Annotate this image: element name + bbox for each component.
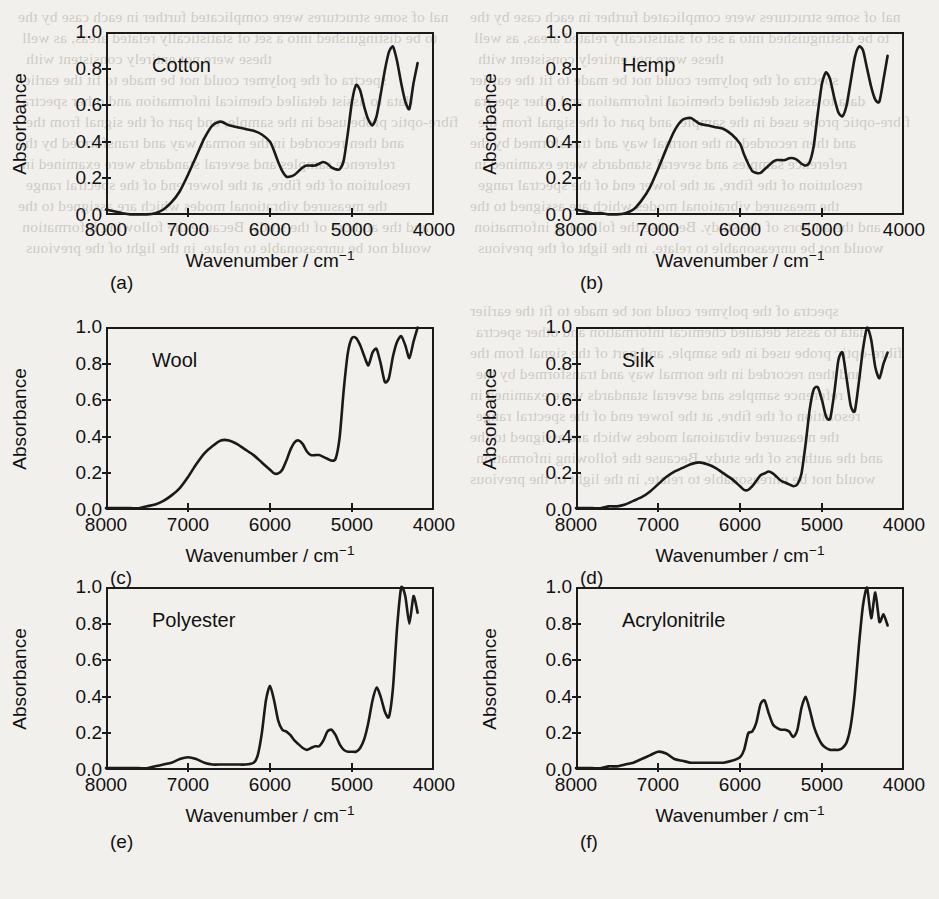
x-tick-label: 7000 (167, 514, 209, 536)
x-tick-mark (351, 763, 353, 772)
y-tick-label: 0.4 (76, 131, 102, 153)
series-label-polyester: Polyester (152, 609, 235, 632)
y-tick-label: 1.0 (546, 316, 572, 338)
y-tick-label: 0.2 (546, 167, 572, 189)
x-tick-label: 7000 (167, 219, 209, 241)
x-tick-label: 8000 (85, 219, 127, 241)
x-tick-mark (351, 503, 353, 512)
y-axis-title-d: Absorbance (478, 327, 502, 510)
panel-wool: Absorbance 0.00.20.40.60.81.0 Wool 80007… (0, 295, 469, 555)
x-tick-labels-c: 80007000600050004000 (106, 514, 434, 540)
x-tick-label: 8000 (555, 514, 597, 536)
y-tick-label: 0.6 (76, 94, 102, 116)
y-tick-label: 0.6 (546, 94, 572, 116)
y-tick-label: 0.8 (76, 613, 102, 635)
x-tick-label: 5000 (801, 219, 843, 241)
x-tick-mark (657, 503, 659, 512)
y-tick-label: 0.2 (76, 167, 102, 189)
panel-acrylonitrile: Absorbance 0.00.20.40.60.81.0 Acrylonitr… (470, 555, 939, 894)
y-tick-label: 0.8 (76, 58, 102, 80)
y-tick-labels-e: 0.00.20.40.60.81.0 (60, 587, 102, 770)
y-tick-label: 0.2 (546, 462, 572, 484)
x-tick-label: 4000 (883, 219, 925, 241)
x-tick-label: 6000 (719, 219, 761, 241)
y-tick-labels-d: 0.00.20.40.60.81.0 (530, 327, 572, 510)
series-label-cotton: Cotton (152, 54, 211, 77)
x-tick-mark (269, 208, 271, 217)
panel-tag-e: (e) (110, 831, 133, 853)
panel-tag-a: (a) (110, 272, 133, 294)
y-tick-label: 0.2 (76, 722, 102, 744)
y-axis-title-c: Absorbance (8, 327, 32, 510)
x-tick-label: 4000 (413, 514, 455, 536)
series-label-wool: Wool (152, 349, 197, 372)
panel-polyester: Absorbance 0.00.20.40.60.81.0 Polyester … (0, 555, 469, 894)
y-axis-title-e: Absorbance (8, 587, 32, 770)
series-label-hemp: Hemp (622, 54, 675, 77)
x-tick-label: 4000 (413, 774, 455, 796)
series-label-silk: Silk (622, 349, 654, 372)
y-tick-label: 0.6 (76, 389, 102, 411)
x-tick-label: 6000 (719, 514, 761, 536)
x-tick-label: 5000 (331, 774, 373, 796)
y-tick-label: 1.0 (546, 576, 572, 598)
y-tick-label: 0.4 (76, 426, 102, 448)
x-tick-label: 7000 (637, 774, 679, 796)
x-tick-mark (657, 208, 659, 217)
y-tick-label: 0.2 (546, 722, 572, 744)
y-tick-label: 0.6 (546, 649, 572, 671)
y-tick-labels-c: 0.00.20.40.60.81.0 (60, 327, 102, 510)
y-tick-label: 0.2 (76, 462, 102, 484)
x-tick-mark (187, 503, 189, 512)
y-axis-title-b: Absorbance (478, 32, 502, 215)
x-tick-label: 8000 (555, 774, 597, 796)
y-axis-title-f: Absorbance (478, 587, 502, 770)
plot-area-hemp: Hemp (576, 32, 904, 215)
x-tick-label: 4000 (883, 514, 925, 536)
x-tick-label: 8000 (85, 774, 127, 796)
y-tick-labels-f: 0.00.20.40.60.81.0 (530, 587, 572, 770)
x-axis-title-a: Wavenumber / cm−1 (106, 248, 434, 272)
plot-area-wool: Wool (106, 327, 434, 510)
y-tick-label: 1.0 (76, 21, 102, 43)
x-tick-mark (821, 763, 823, 772)
y-tick-label: 0.6 (546, 389, 572, 411)
x-tick-label: 5000 (801, 774, 843, 796)
panel-hemp: Absorbance 0.00.20.40.60.81.0 Hemp 80007… (470, 0, 939, 300)
x-tick-label: 7000 (637, 514, 679, 536)
x-tick-label: 6000 (249, 774, 291, 796)
y-axis-title-a: Absorbance (8, 32, 32, 215)
x-tick-mark (657, 763, 659, 772)
series-label-acrylonitrile: Acrylonitrile (622, 609, 725, 632)
y-tick-label: 0.4 (546, 131, 572, 153)
x-tick-label: 4000 (883, 774, 925, 796)
x-tick-label: 7000 (637, 219, 679, 241)
panel-silk: Absorbance 0.00.20.40.60.81.0 Silk 80007… (470, 295, 939, 555)
x-tick-mark (187, 208, 189, 217)
y-tick-label: 1.0 (76, 316, 102, 338)
panel-tag-b: (b) (580, 272, 603, 294)
x-tick-mark (821, 503, 823, 512)
y-tick-labels-a: 0.00.20.40.60.81.0 (60, 32, 102, 215)
x-tick-mark (739, 208, 741, 217)
x-axis-title-f: Wavenumber / cm−1 (576, 803, 904, 827)
panel-tag-f: (f) (580, 831, 598, 853)
x-tick-mark (351, 208, 353, 217)
y-tick-label: 0.4 (546, 686, 572, 708)
plot-area-acrylonitrile: Acrylonitrile (576, 587, 904, 770)
x-tick-mark (739, 503, 741, 512)
y-tick-label: 0.4 (76, 686, 102, 708)
x-axis-title-e: Wavenumber / cm−1 (106, 803, 434, 827)
plot-area-cotton: Cotton (106, 32, 434, 215)
x-tick-label: 6000 (249, 219, 291, 241)
y-tick-label: 0.4 (546, 426, 572, 448)
x-tick-label: 7000 (167, 774, 209, 796)
y-tick-label: 0.8 (546, 613, 572, 635)
plot-area-polyester: Polyester (106, 587, 434, 770)
x-tick-mark (269, 763, 271, 772)
y-tick-label: 0.8 (76, 353, 102, 375)
x-tick-label: 5000 (331, 219, 373, 241)
x-tick-labels-f: 80007000600050004000 (576, 774, 904, 800)
x-tick-labels-b: 80007000600050004000 (576, 219, 904, 245)
y-tick-label: 1.0 (76, 576, 102, 598)
